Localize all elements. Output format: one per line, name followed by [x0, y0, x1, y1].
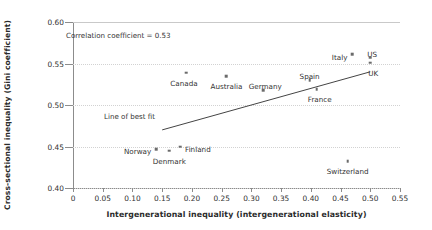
x-tick-label: 0.20	[184, 194, 200, 203]
x-tick-label: 0.50	[362, 194, 378, 203]
data-point	[315, 88, 318, 91]
data-point-label: Australia	[210, 82, 242, 91]
x-tick-label: 0	[71, 194, 76, 203]
x-axis-label: Intergenerational inequality (intergener…	[73, 210, 400, 219]
x-axis-ticks: 00.050.100.150.200.250.300.350.400.450.5…	[73, 188, 400, 208]
y-tick-label: 0.60	[40, 18, 64, 27]
x-tick-label: 0.35	[273, 194, 289, 203]
x-tick-label: 0.30	[243, 194, 259, 203]
y-tick-label: 0.50	[40, 101, 64, 110]
y-tick	[65, 188, 73, 189]
y-tick-label: 0.45	[40, 143, 64, 152]
x-tick-label: 0.25	[213, 194, 229, 203]
fit-line-annotation: Line of best fit	[104, 112, 155, 121]
data-point	[185, 71, 188, 74]
x-tick	[73, 188, 74, 192]
x-tick	[132, 188, 133, 192]
data-point-label: Spain	[300, 72, 320, 81]
data-point-label: Canada	[170, 79, 197, 88]
data-point	[155, 148, 158, 151]
x-tick-label: 0.10	[124, 194, 140, 203]
data-point-label: Germany	[249, 82, 282, 91]
y-tick	[65, 147, 73, 148]
data-point-label: Italy	[332, 53, 348, 62]
data-point-label: Denmark	[153, 157, 186, 166]
x-tick-label: 0.45	[332, 194, 348, 203]
data-point	[225, 75, 228, 78]
line-of-best-fit	[73, 22, 400, 188]
x-tick	[341, 188, 342, 192]
x-tick	[311, 188, 312, 192]
x-tick-label: 0.15	[154, 194, 170, 203]
x-tick	[370, 188, 371, 192]
data-point-label: UK	[368, 69, 378, 78]
data-point-label: Norway	[124, 147, 151, 156]
x-tick	[251, 188, 252, 192]
data-point	[346, 160, 349, 163]
x-tick	[400, 188, 401, 192]
data-point	[351, 53, 354, 56]
x-tick-label: 0.55	[392, 194, 408, 203]
plot-area: NorwayDenmarkFinlandCanadaAustraliaGerma…	[73, 22, 400, 188]
y-tick-label: 0.40	[40, 184, 64, 193]
x-tick-label: 0.40	[303, 194, 319, 203]
data-point	[179, 145, 182, 148]
correlation-annotation: Correlation coefficient = 0.53	[66, 31, 171, 40]
x-tick	[103, 188, 104, 192]
data-point-label: France	[308, 95, 332, 104]
y-tick-label: 0.55	[40, 60, 64, 69]
x-tick-label: 0.05	[94, 194, 110, 203]
data-point-label: US	[367, 50, 377, 59]
x-tick	[281, 188, 282, 192]
y-axis-label: Cross-sectional inequality (Gini coeffic…	[0, 0, 14, 230]
x-tick	[162, 188, 163, 192]
scatter-chart: Cross-sectional inequality (Gini coeffic…	[0, 0, 432, 230]
y-tick	[65, 22, 73, 23]
data-point	[369, 61, 372, 64]
y-tick	[65, 64, 73, 65]
data-point-label: Finland	[185, 145, 211, 154]
x-tick	[222, 188, 223, 192]
x-tick	[192, 188, 193, 192]
y-tick	[65, 105, 73, 106]
data-point	[168, 149, 171, 152]
data-point-label: Switzerland	[327, 167, 369, 176]
